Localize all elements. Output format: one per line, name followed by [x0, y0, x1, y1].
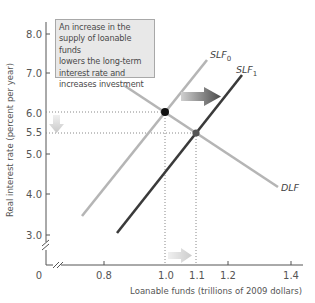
callout-line: interest rate and: [59, 68, 151, 79]
x-axis-title: Loanable funds (trillions of 2009 dollar…: [130, 286, 302, 296]
slf1-label: SLF1: [236, 64, 257, 78]
slf1-curve: [117, 75, 242, 233]
x-tick-1-2: 1.2: [220, 270, 236, 281]
x-tick-0-8: 0.8: [96, 270, 112, 281]
supply-shift-arrow-icon: [181, 87, 221, 106]
y-axis: [42, 22, 50, 265]
y-tick-3: 3.0: [26, 230, 42, 241]
y-tick-4: 4.0: [26, 189, 42, 200]
rate-decrease-arrow-icon: [49, 115, 64, 133]
y-tick-8: 8.0: [26, 29, 42, 40]
dlf-label: DLF: [281, 182, 300, 193]
callout-line: supply of loanable funds: [59, 33, 151, 56]
x-tick-1-0: 1.0: [158, 270, 174, 281]
callout-line: increases investment: [59, 79, 151, 90]
x-tick-1-1: 1.1: [189, 270, 205, 281]
slf0-label: SLF0: [210, 49, 231, 63]
origin-label: 0: [36, 270, 42, 281]
explanation-callout: An increase in the supply of loanable fu…: [55, 19, 155, 78]
y-tick-5: 5.0: [26, 149, 42, 160]
dlf-curve: [125, 86, 278, 187]
y-axis-title: Real interest rate (percent per year): [5, 63, 15, 217]
x-axis: [46, 261, 303, 268]
y-tick-5-5: 5.5: [26, 127, 42, 138]
loanable-funds-chart: 8.0 7.0 6.0 5.5 5.0 4.0 3.0 0 0.8 1.0 1.…: [0, 0, 315, 303]
y-tick-6: 6.0: [26, 108, 42, 119]
quantity-increase-arrow-icon: [168, 248, 192, 263]
y-tick-7: 7.0: [26, 68, 42, 79]
callout-line: An increase in the: [59, 22, 151, 33]
new-equilibrium-point: [192, 129, 199, 136]
guide-lines: [46, 112, 196, 265]
y-tick-labels: 8.0 7.0 6.0 5.5 5.0 4.0 3.0: [26, 29, 42, 241]
x-tick-1-4: 1.4: [283, 270, 299, 281]
callout-line: lowers the long-term: [59, 56, 151, 67]
initial-equilibrium-point: [161, 108, 169, 116]
x-tick-labels: 0 0.8 1.0 1.1 1.2 1.4: [36, 270, 299, 281]
